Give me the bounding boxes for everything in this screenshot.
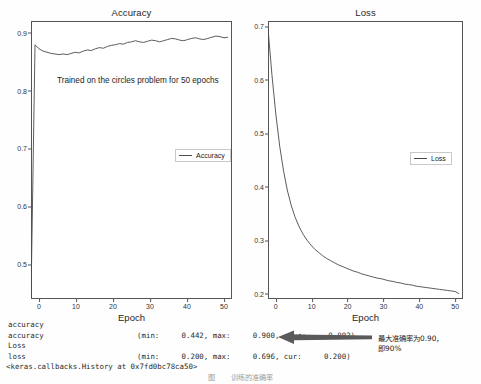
- accuracy-annotation-text: Trained on the circles problem for 50 ep…: [57, 76, 219, 85]
- figure-caption: 图 训练的准确率: [0, 372, 481, 382]
- screenshot-root: Accuracy 0.5 0.6 0.7 0.8 0.9 0 10 20 30 …: [0, 0, 481, 384]
- cjk-annotation: 最大准确率为0.90， 即90%: [378, 334, 478, 353]
- loss-xtick-4: 40: [415, 303, 423, 310]
- loss-ytick-3: 0.5: [254, 130, 264, 137]
- accuracy-plot-title: Accuracy: [31, 7, 232, 18]
- accuracy-legend-swatch: [179, 155, 192, 156]
- accuracy-xtick-2: 20: [109, 303, 117, 310]
- cjk-annotation-line-1: 最大准确率为0.90，: [378, 334, 478, 344]
- loss-ytick-5: 0.7: [254, 23, 264, 30]
- loss-plot-panel: Loss 0.2 0.3 0.4 0.5 0.6 0.7 0 10 20 30 …: [268, 21, 463, 299]
- accuracy-legend: Accuracy: [175, 149, 231, 162]
- accuracy-plot-panel: Accuracy 0.5 0.6 0.7 0.8 0.9 0 10 20 30 …: [31, 21, 232, 299]
- accuracy-ytick-4: 0.9: [17, 29, 27, 36]
- accuracy-xtick-4: 40: [183, 303, 191, 310]
- output-line-loss-header: Loss: [8, 341, 26, 352]
- loss-legend: Loss: [410, 152, 452, 165]
- output-line-history-repr: <keras.callbacks.History at 0x7fd0bc78ca…: [6, 362, 197, 373]
- loss-xtick-1: 10: [308, 303, 316, 310]
- loss-xtick-5: 50: [451, 303, 459, 310]
- accuracy-ytick-0: 0.5: [17, 261, 27, 268]
- cjk-annotation-line-2: 即90%: [378, 344, 478, 354]
- loss-ytick-1: 0.3: [254, 237, 264, 244]
- loss-xtick-0: 0: [274, 303, 278, 310]
- loss-ytick-2: 0.4: [254, 183, 264, 190]
- accuracy-ytick-3: 0.8: [17, 87, 27, 94]
- output-line-accuracy-header: accuracy: [8, 320, 44, 331]
- accuracy-ytick-2: 0.7: [17, 145, 27, 152]
- loss-xtick-2: 20: [344, 303, 352, 310]
- loss-plot-title: Loss: [268, 7, 463, 18]
- loss-legend-swatch: [414, 158, 427, 159]
- output-line-loss-stats: loss (min: 0.200, max: 0.696, cur: 0.200…: [8, 352, 351, 363]
- matplotlib-figure: Accuracy 0.5 0.6 0.7 0.8 0.9 0 10 20 30 …: [0, 0, 481, 318]
- loss-xtick-3: 30: [380, 303, 388, 310]
- loss-legend-label: Loss: [431, 155, 446, 162]
- accuracy-legend-label: Accuracy: [196, 152, 225, 159]
- accuracy-ytick-1: 0.6: [17, 203, 27, 210]
- loss-ytick-0: 0.2: [254, 290, 264, 297]
- accuracy-xtick-5: 50: [220, 303, 228, 310]
- accuracy-xtick-0: 0: [37, 303, 41, 310]
- loss-ytick-4: 0.6: [254, 76, 264, 83]
- accuracy-xtick-1: 10: [72, 303, 80, 310]
- accuracy-xtick-3: 30: [146, 303, 154, 310]
- callout-arrow-icon: [277, 328, 373, 346]
